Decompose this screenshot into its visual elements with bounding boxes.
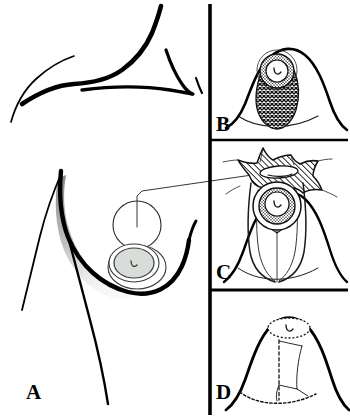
nipple-areola-complex-a xyxy=(108,244,166,289)
panel-label-c: C xyxy=(216,262,231,283)
surgical-figure: A B C D xyxy=(0,0,350,419)
areola-inner-c xyxy=(265,192,289,216)
panel-label-a: A xyxy=(26,382,41,403)
figure-canvas xyxy=(0,0,350,419)
panel-label-d: D xyxy=(216,382,231,403)
areola-inner-b xyxy=(266,60,288,82)
panel-label-b: B xyxy=(216,114,230,135)
dotted-areola-outline-d xyxy=(268,318,310,338)
